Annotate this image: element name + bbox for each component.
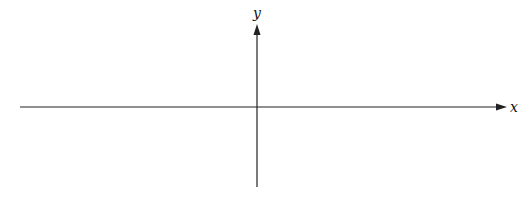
y-axis-label: y [252,5,262,21]
x-axis: x [20,99,518,115]
x-axis-label: x [510,99,518,115]
y-axis: y [252,5,262,187]
y-axis-arrowhead-icon [254,24,261,35]
x-axis-arrowhead-icon [496,104,507,111]
coordinate-axes-diagram: x y [0,0,523,197]
